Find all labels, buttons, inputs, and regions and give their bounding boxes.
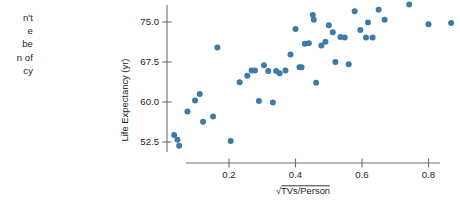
data-point [197,91,203,97]
data-points [171,1,454,148]
data-point [326,22,332,28]
data-point [200,119,206,125]
body-text-line: cy [0,64,52,77]
data-point [277,70,283,76]
data-point [357,27,363,33]
x-axis: 0.20.40.60.8 [186,159,440,181]
data-point [228,138,234,144]
data-point [265,68,271,74]
data-point [426,21,432,27]
data-point [376,7,382,13]
data-point [448,20,454,26]
data-point [330,29,336,35]
data-point [270,100,276,106]
data-point [365,20,371,26]
data-point [306,40,312,46]
plot-canvas: 52.560.067.575.0 0.20.40.60.8 Life Expec… [110,0,460,201]
x-tick-label: 0.8 [422,169,435,180]
data-point [210,113,216,119]
data-point [311,17,317,23]
data-point [261,62,267,68]
body-text-column: n't e be n of cy [0,11,52,91]
data-point [370,34,376,40]
body-text-line: e [0,24,52,37]
data-point [288,52,294,58]
data-point [363,34,369,40]
data-point [382,17,388,23]
data-point [214,45,220,51]
data-point [346,61,352,67]
data-point [298,64,304,70]
data-point [244,73,250,79]
body-text-line: n of [0,51,52,64]
data-point [252,68,258,74]
data-point [192,97,198,103]
data-point [174,137,180,143]
y-tick-label: 60.0 [140,96,159,107]
data-point [283,68,289,74]
scatter-plot: 52.560.067.575.0 0.20.40.60.8 Life Expec… [110,0,460,201]
data-point [406,1,412,7]
x-tick-label: 0.2 [222,169,235,180]
x-tick-label: 0.4 [289,169,303,180]
x-axis-title: √TVs/Person [276,185,330,196]
data-point [342,34,348,40]
data-point [184,109,190,115]
y-tick-label: 52.5 [140,136,159,147]
data-point [322,39,328,45]
y-axis-title: Life Expectancy (yr) [119,59,130,142]
x-axis-title-text: √TVs/Person [276,185,330,196]
y-tick-label: 67.5 [140,56,159,67]
data-point [237,79,243,85]
data-point [176,143,182,149]
data-point [332,59,338,65]
data-point [352,8,358,14]
data-point [293,26,299,32]
data-point [256,98,262,104]
x-tick-label: 0.6 [355,169,368,180]
y-axis: 52.560.067.575.0 [140,5,171,152]
body-text-line: be [0,37,52,50]
y-tick-label: 75.0 [140,16,159,27]
data-point [313,80,319,86]
body-text-line: n't [0,11,52,24]
